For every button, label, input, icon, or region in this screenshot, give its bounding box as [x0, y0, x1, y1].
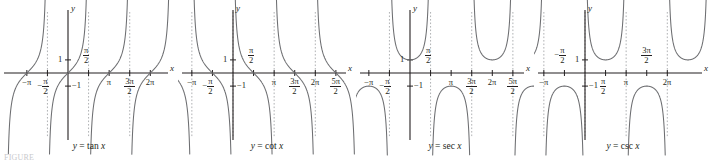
fraction-denominator: 2 [330, 87, 341, 96]
caption-function: cot [265, 141, 277, 151]
y-tick-label: −1 [72, 81, 81, 90]
caption-function: tan [87, 141, 99, 151]
x-tick-label: π2 [83, 46, 89, 64]
panel-caption: y = csc x [534, 141, 710, 151]
caption-lhs: y [251, 141, 255, 151]
y-tick-label: 1 [58, 55, 62, 64]
x-tick-label: 5π2 [330, 77, 341, 95]
caption-equals: = [613, 141, 618, 151]
fraction-denominator: 2 [42, 87, 48, 96]
caption-equals: = [257, 141, 262, 151]
x-tick-label: π [272, 78, 276, 87]
panel-caption: y = cot x [178, 141, 356, 151]
x-tick-label: π [449, 78, 453, 87]
caption-equals: = [79, 141, 84, 151]
curve-branch [178, 52, 190, 154]
x-tick-fraction: π2 [384, 77, 390, 95]
fraction-denominator: 2 [600, 87, 606, 96]
trig-graphs-figure: yx1−1−π−π2π2π3π22πy = tan x yx1−1−π−π2π2… [0, 0, 710, 162]
caption-function: csc [621, 141, 633, 151]
fraction-denominator: 2 [248, 56, 254, 65]
x-tick-label: 2π [488, 78, 497, 87]
x-tick-label: 3π2 [641, 46, 652, 64]
x-tick-label: π2 [425, 46, 431, 64]
y-axis-label: y [588, 4, 592, 13]
caption-lhs: y [428, 141, 432, 151]
curve-branch [670, 0, 707, 60]
curve-branch [235, 0, 272, 154]
caption-variable: x [635, 141, 639, 151]
x-tick-fraction: π2 [425, 46, 431, 64]
fraction-denominator: 2 [124, 87, 135, 96]
caption-variable: x [279, 141, 283, 151]
y-axis-label: y [413, 4, 417, 13]
curve-branch [474, 0, 511, 60]
caption-lhs: y [73, 141, 77, 151]
x-axis-label: x [348, 64, 352, 73]
x-tick-label: 3π2 [124, 77, 135, 95]
caption-function: sec [443, 141, 455, 151]
y-tick-label: 1 [400, 55, 404, 64]
y-axis-label: y [71, 4, 75, 13]
x-tick-fraction: π2 [559, 46, 565, 64]
x-tick-fraction: π2 [600, 77, 606, 95]
fraction-denominator: 2 [507, 87, 518, 96]
x-axis-label: x [704, 64, 708, 73]
x-tick-fraction: 5π2 [330, 77, 341, 95]
caption-variable: x [457, 141, 461, 151]
figure-caption-partial: FIGURE [4, 153, 34, 162]
fraction-denominator: 2 [425, 56, 431, 65]
x-tick-label: π [624, 78, 628, 87]
x-tick-label: −π [22, 78, 31, 87]
panel-csc: yx1−1−π−π2π2π3π22πy = csc x [534, 0, 710, 162]
panel-cot: yx1−1−π−π2π2π3π22π5π2y = cot x [178, 0, 356, 162]
x-tick-fraction: 3π2 [641, 46, 652, 64]
x-tick-label: −π2 [554, 46, 565, 64]
x-tick-label: −π [187, 78, 196, 87]
x-tick-label: −π2 [202, 77, 213, 95]
fraction-denominator: 2 [641, 56, 652, 65]
y-tick-label: 1 [575, 55, 579, 64]
panel-caption: y = sec x [356, 141, 534, 151]
y-tick-label: 1 [223, 55, 227, 64]
x-tick-fraction: 3π2 [466, 77, 477, 95]
curve-branch [534, 0, 542, 60]
plot-csc [534, 0, 710, 162]
x-tick-fraction: π2 [207, 77, 213, 95]
x-tick-label: π [107, 78, 111, 87]
x-tick-label: −π2 [37, 77, 48, 95]
y-tick-label: −1 [237, 81, 246, 90]
x-tick-label: 3π2 [466, 77, 477, 95]
panel-caption: y = tan x [0, 141, 178, 151]
x-tick-label: −π [364, 78, 373, 87]
x-tick-label: 2π [146, 78, 155, 87]
x-tick-label: 2π [311, 78, 320, 87]
fraction-denominator: 2 [207, 87, 213, 96]
fraction-denominator: 2 [559, 56, 565, 65]
x-tick-fraction: 3π2 [289, 77, 300, 95]
x-tick-label: 3π2 [289, 77, 300, 95]
panel-tan: yx1−1−π−π2π2π3π22πy = tan x [0, 0, 178, 162]
fraction-denominator: 2 [466, 87, 477, 96]
x-tick-label: −π2 [379, 77, 390, 95]
caption-lhs: y [606, 141, 610, 151]
curve-branch [587, 0, 624, 60]
x-axis-label: x [526, 64, 530, 73]
x-tick-label: 5π2 [507, 77, 518, 95]
y-tick-label: −1 [414, 81, 423, 90]
x-tick-fraction: π2 [42, 77, 48, 95]
y-axis-label: y [236, 4, 240, 13]
y-tick-label: −1 [589, 81, 598, 90]
x-tick-fraction: π2 [83, 46, 89, 64]
x-tick-label: π2 [600, 77, 606, 95]
fraction-denominator: 2 [83, 56, 89, 65]
x-tick-label: −π [539, 78, 548, 87]
x-tick-label: 2π [663, 78, 672, 87]
x-axis-label: x [170, 64, 174, 73]
x-tick-fraction: 5π2 [507, 77, 518, 95]
x-tick-fraction: π2 [248, 46, 254, 64]
x-tick-fraction: 3π2 [124, 77, 135, 95]
x-tick-label: π2 [248, 46, 254, 64]
fraction-denominator: 2 [384, 87, 390, 96]
fraction-denominator: 2 [289, 87, 300, 96]
